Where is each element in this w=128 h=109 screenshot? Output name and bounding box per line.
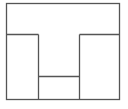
interior-lines [7,35,120,100]
floor-plan-diagram [0,0,128,109]
outer-boundary [7,4,120,100]
